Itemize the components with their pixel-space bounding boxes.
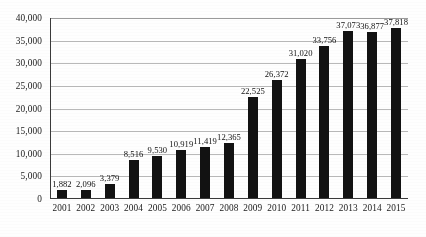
bar-value-label: 37,073 xyxy=(336,20,360,30)
plot-area: 1,8822,0963,3798,5169,53010,91911,41912,… xyxy=(50,18,408,199)
bar xyxy=(224,143,234,199)
bar-value-label: 11,419 xyxy=(193,136,217,146)
bar-value-label: 1,882 xyxy=(52,179,72,189)
y-axis-tick-label: 0 xyxy=(37,194,42,204)
bar xyxy=(200,147,210,199)
bar-value-label: 26,372 xyxy=(265,69,289,79)
gridline xyxy=(50,41,408,42)
bar xyxy=(248,97,258,199)
x-axis-tick-label: 2002 xyxy=(76,203,95,213)
x-axis-tick-label: 2003 xyxy=(100,203,119,213)
bar-chart: 05,00010,00015,00020,00025,00030,00035,0… xyxy=(0,0,426,237)
bar xyxy=(272,80,282,199)
gridline xyxy=(50,63,408,64)
x-axis-labels: 2001200220032004200520062007200820092010… xyxy=(50,203,408,221)
gridline xyxy=(50,86,408,87)
bar-value-label: 12,365 xyxy=(217,132,241,142)
bar xyxy=(105,184,115,199)
bar-value-label: 36,877 xyxy=(360,21,384,31)
bar-value-label: 33,756 xyxy=(312,35,336,45)
x-axis-tick-label: 2008 xyxy=(220,203,239,213)
bar xyxy=(152,156,162,199)
bar-value-label: 9,530 xyxy=(148,145,168,155)
y-axis-tick-label: 35,000 xyxy=(16,36,42,46)
y-axis-tick-label: 25,000 xyxy=(16,81,42,91)
x-axis-tick-label: 2012 xyxy=(315,203,334,213)
bar-value-label: 8,516 xyxy=(124,149,144,159)
bar-value-label: 2,096 xyxy=(76,179,96,189)
gridline xyxy=(50,109,408,110)
y-axis-tick-label: 15,000 xyxy=(16,126,42,136)
x-axis-tick-label: 2014 xyxy=(363,203,382,213)
y-axis-tick-label: 20,000 xyxy=(16,104,42,114)
x-axis-tick-label: 2010 xyxy=(267,203,286,213)
bar xyxy=(343,31,353,199)
bar-value-label: 10,919 xyxy=(169,139,193,149)
gridline xyxy=(50,18,408,19)
bar-value-label: 37,818 xyxy=(384,17,408,27)
bar-value-label: 22,525 xyxy=(241,86,265,96)
bar-value-label: 31,020 xyxy=(289,48,313,58)
x-axis-tick-label: 2007 xyxy=(196,203,215,213)
bar xyxy=(129,160,139,199)
x-axis-tick-label: 2015 xyxy=(387,203,406,213)
x-axis-tick-label: 2013 xyxy=(339,203,358,213)
y-axis-tick-label: 40,000 xyxy=(16,13,42,23)
x-axis-tick-label: 2011 xyxy=(291,203,310,213)
y-axis-line xyxy=(50,18,51,199)
x-axis-tick-label: 2004 xyxy=(124,203,143,213)
y-axis-tick-label: 30,000 xyxy=(16,58,42,68)
bar xyxy=(176,150,186,199)
y-axis-tick-label: 10,000 xyxy=(16,149,42,159)
bar xyxy=(391,28,401,199)
bar xyxy=(319,46,329,199)
x-axis-tick-label: 2006 xyxy=(172,203,191,213)
x-axis-tick-label: 2001 xyxy=(52,203,71,213)
x-axis-line xyxy=(50,198,408,199)
x-axis-tick-label: 2005 xyxy=(148,203,167,213)
bar-value-label: 3,379 xyxy=(100,173,120,183)
bar xyxy=(367,32,377,199)
bar xyxy=(296,59,306,199)
y-axis-tick-label: 5,000 xyxy=(21,171,42,181)
y-axis-labels: 05,00010,00015,00020,00025,00030,00035,0… xyxy=(0,0,46,237)
x-axis-tick-label: 2009 xyxy=(243,203,262,213)
